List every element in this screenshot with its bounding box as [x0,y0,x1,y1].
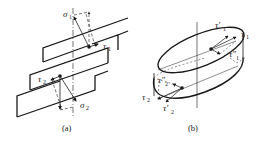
panel-b [152,18,249,108]
label-tau1: τ [103,41,107,51]
tau1-arrow [89,44,98,47]
svg-text:2: 2 [165,81,168,87]
sigma2-arrow [60,76,76,101]
caption-b: (b) [188,123,198,133]
svg-text:1: 1 [223,26,226,32]
svg-text:2: 2 [43,79,46,85]
svg-text:1: 1 [69,14,72,20]
label-tau2-prime: τ′ [163,103,169,113]
caption-a: (a) [62,123,72,133]
stress-diagram: σ 1 τ 1 τ 2 σ 2 (a) [0,0,260,147]
panel-a [17,8,128,117]
svg-text:2: 2 [147,97,150,103]
svg-text:2: 2 [171,109,174,115]
bottom-ellipse [154,57,244,98]
svg-text:1: 1 [108,46,111,52]
label-sigma2: σ [80,100,85,110]
svg-text:2: 2 [86,105,89,111]
svg-text:1: 1 [236,55,239,61]
plane-middle [30,48,108,90]
label-tau2: τ [38,74,42,84]
svg-text:1: 1 [246,34,249,40]
label-sigma1: σ [63,9,68,19]
label-tau2: τ [142,92,146,102]
